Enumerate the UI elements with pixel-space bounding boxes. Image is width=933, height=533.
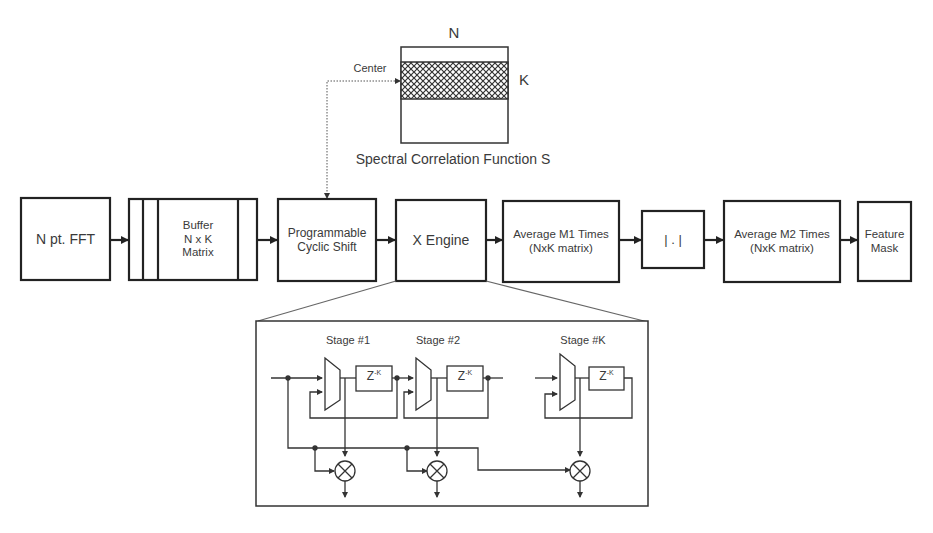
x-engine-detail-box: [256, 321, 648, 506]
block-buffer-line3: Matrix: [182, 246, 213, 260]
spectral-caption: Spectral Correlation Function S: [346, 151, 560, 168]
block-buffer: Buffer N x K Matrix: [158, 199, 238, 280]
block-fft: N pt. FFT: [21, 198, 110, 280]
block-abs-label: | . |: [664, 232, 682, 248]
block-feature-mask-line1: Feature: [865, 228, 905, 242]
block-fft-label: N pt. FFT: [36, 231, 95, 248]
zoom-lines: [258, 281, 648, 322]
spectral-matrix: [401, 47, 508, 143]
delay-k: Z-K: [589, 369, 624, 383]
stage-k-label: Stage #K: [553, 334, 613, 347]
block-avg-m1-line2: (NxK matrix): [529, 242, 593, 256]
block-avg-m1: Average M1 Times (NxK matrix): [503, 201, 619, 282]
delay-k-exp: -K: [607, 369, 614, 376]
block-avg-m1-line1: Average M1 Times: [513, 228, 609, 242]
center-connector: [324, 78, 401, 199]
block-avg-m2-line1: Average M2 Times: [734, 228, 830, 242]
block-x-engine: X Engine: [396, 200, 486, 281]
matrix-label-k: K: [516, 71, 532, 89]
stage-1-label: Stage #1: [318, 334, 378, 347]
matrix-label-n: N: [444, 24, 464, 42]
block-abs: | . |: [642, 211, 704, 268]
delay-2-exp: -K: [465, 369, 472, 376]
block-buffer-line2: N x K: [184, 233, 212, 247]
block-cyclic-shift-line2: Cyclic Shift: [297, 240, 356, 254]
delay-1: Z-K: [356, 369, 392, 383]
stage-2-label: Stage #2: [408, 334, 468, 347]
block-buffer-line1: Buffer: [183, 219, 213, 233]
delay-2: Z-K: [447, 369, 483, 383]
block-x-engine-label: X Engine: [413, 232, 470, 249]
block-feature-mask: Feature Mask: [858, 202, 911, 281]
center-label: Center: [342, 62, 398, 75]
block-cyclic-shift: Programmable Cyclic Shift: [278, 199, 376, 281]
block-avg-m2: Average M2 Times (NxK matrix): [724, 201, 840, 282]
block-feature-mask-line2: Mask: [871, 242, 898, 256]
block-cyclic-shift-line1: Programmable: [288, 226, 367, 240]
delay-1-exp: -K: [374, 369, 381, 376]
delay-k-base: Z: [599, 369, 606, 383]
block-avg-m2-line2: (NxK matrix): [750, 242, 814, 256]
